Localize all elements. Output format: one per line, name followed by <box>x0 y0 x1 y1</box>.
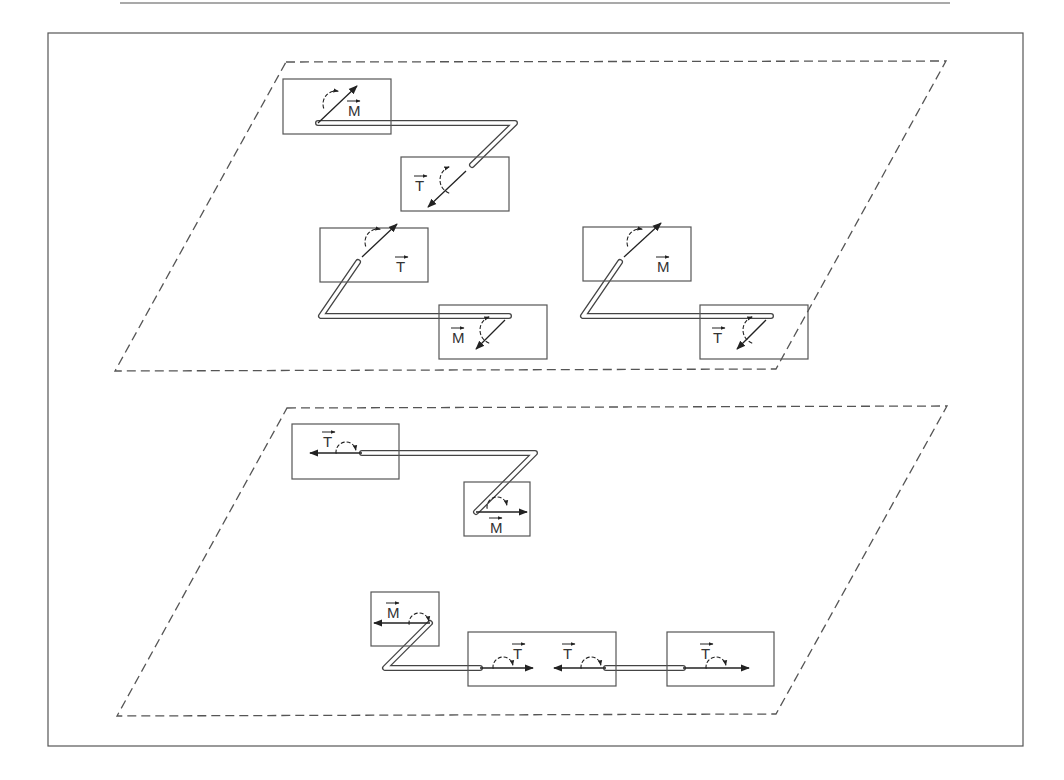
svg-text:T: T <box>563 645 572 662</box>
svg-text:M: M <box>452 329 465 346</box>
svg-text:T: T <box>713 329 722 346</box>
arrow-upper-a2-icon <box>428 171 466 207</box>
boxes-layer <box>283 79 808 686</box>
label-upper-a1: M <box>347 101 361 119</box>
moment-arc-upper-b2-icon <box>480 317 489 343</box>
moment-arc-upper-b1-icon <box>365 229 380 246</box>
svg-text:T: T <box>323 433 332 450</box>
label-upper-b2: M <box>451 328 465 346</box>
label-upper-b1: T <box>395 257 408 275</box>
label-upper-c1: M <box>656 257 670 275</box>
label-upper-a2: T <box>414 176 427 194</box>
moment-arc-lower-b2-icon <box>493 657 513 669</box>
label-upper-c2: T <box>712 328 725 346</box>
arrows-layer <box>310 86 766 668</box>
planes-layer <box>115 61 947 716</box>
svg-text:M: M <box>657 258 670 275</box>
diagram-canvas: MTTMMTTMMTTT <box>0 0 1064 780</box>
upper-plane <box>115 61 946 371</box>
moment-arc-lower-a1-icon <box>336 442 356 454</box>
box-upper-c1 <box>583 227 691 281</box>
svg-text:T: T <box>396 258 405 275</box>
arrow-upper-c1-icon <box>624 223 661 257</box>
label-lower-a2: M <box>489 518 503 536</box>
box-upper-b1 <box>320 228 428 282</box>
labels-layer: MTTMMTTMMTTT <box>322 101 725 662</box>
svg-text:T: T <box>513 645 522 662</box>
box-lower-b3 <box>667 632 774 686</box>
tube-upper-c <box>583 262 771 316</box>
moment-arc-lower-b3-icon <box>581 657 601 669</box>
moment-arc-upper-a2-icon <box>440 167 449 193</box>
moments-layer <box>323 91 752 669</box>
label-lower-b3: T <box>562 644 575 662</box>
arrow-upper-c2-icon <box>737 320 766 349</box>
svg-text:M: M <box>490 519 503 536</box>
moment-arc-upper-c1-icon <box>627 229 642 246</box>
box-lower-b1 <box>371 592 439 646</box>
label-lower-a1: T <box>322 432 335 450</box>
tube-upper-a <box>318 123 515 165</box>
outer-frame <box>48 33 1023 746</box>
box-lower-b2 <box>468 632 616 686</box>
label-lower-b1: M <box>386 603 400 621</box>
tubes-layer <box>318 123 771 668</box>
svg-text:T: T <box>701 645 710 662</box>
svg-text:M: M <box>348 102 361 119</box>
label-lower-b4: T <box>700 644 713 662</box>
svg-text:M: M <box>387 604 400 621</box>
label-lower-b2: T <box>512 644 525 662</box>
tube-upper-b <box>321 262 509 316</box>
svg-text:T: T <box>415 177 424 194</box>
